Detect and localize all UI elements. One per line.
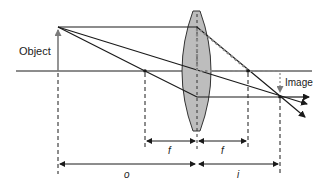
focal-point-right	[246, 69, 250, 73]
image-distance-label: i	[237, 169, 240, 180]
focal-left-label: f	[168, 145, 172, 156]
image-label: Image	[285, 77, 313, 88]
focal-point-left	[143, 69, 147, 73]
object-label: Object	[19, 45, 51, 57]
lens-diagram: Object Image f f o i	[0, 0, 327, 184]
focal-right-label: f	[221, 145, 225, 156]
image-point	[278, 95, 282, 99]
object-distance-label: o	[124, 169, 130, 180]
ray-center	[58, 27, 307, 104]
